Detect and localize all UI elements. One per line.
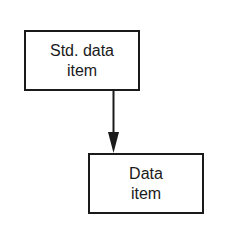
data-item-label: Data item [129, 164, 163, 204]
arrowhead-icon [108, 132, 119, 153]
label-line-2: item [129, 184, 163, 204]
label-line-1: Data [129, 164, 163, 184]
label-line-2: item [50, 61, 114, 81]
label-line-1: Std. data [50, 41, 114, 61]
std-data-item-label: Std. data item [50, 41, 114, 81]
std-data-item-node: Std. data item [24, 30, 140, 91]
data-item-node: Data item [88, 153, 204, 214]
